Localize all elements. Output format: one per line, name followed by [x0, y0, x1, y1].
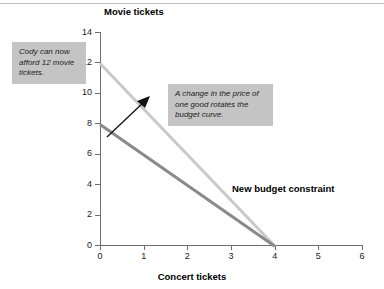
x-tick-label-2: 2 [177, 252, 197, 261]
x-tick-label-6: 6 [352, 252, 372, 261]
x-tick-5 [318, 245, 319, 250]
y-tick-4 [95, 184, 100, 185]
x-tick-label-0: 0 [90, 252, 110, 261]
x-tick-label-4: 4 [265, 252, 285, 261]
y-tick-10 [95, 93, 100, 94]
callout-cody-afford: Cody can now afford 12 movie tickets. [12, 42, 86, 84]
x-tick-label-3: 3 [221, 252, 241, 261]
y-tick-label-2: 2 [72, 210, 92, 219]
y-tick-label-0: 0 [72, 241, 92, 250]
budget-constraint-figure: 0 2 4 6 8 10 12 14 0 1 2 3 4 5 6 Movie t… [0, 0, 384, 289]
x-tick-3 [231, 245, 232, 250]
callout-price-change-rotates: A change in the price of one good rotate… [168, 84, 273, 126]
y-axis-title: Movie tickets [104, 6, 164, 17]
x-tick-6 [362, 245, 363, 250]
x-tick-label-5: 5 [308, 252, 328, 261]
y-tick-label-6: 6 [72, 149, 92, 158]
y-tick-label-10: 10 [72, 88, 92, 97]
x-tick-0 [100, 245, 101, 250]
y-tick-label-8: 8 [72, 119, 92, 128]
x-tick-label-1: 1 [134, 252, 154, 261]
y-tick-6 [95, 154, 100, 155]
y-tick-14 [95, 32, 100, 33]
rotation-arrow-icon [104, 92, 156, 140]
y-tick-label-4: 4 [72, 180, 92, 189]
x-tick-2 [187, 245, 188, 250]
y-tick-2 [95, 215, 100, 216]
x-tick-1 [144, 245, 145, 250]
series-label-new-budget-constraint: New budget constraint [232, 183, 334, 194]
x-axis-title: Concert tickets [0, 271, 384, 282]
y-tick-label-14: 14 [72, 28, 92, 37]
